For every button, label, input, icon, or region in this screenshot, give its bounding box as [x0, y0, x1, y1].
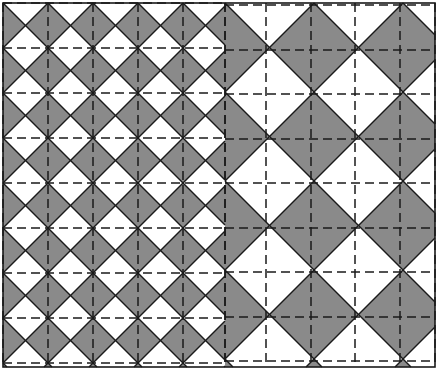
- tiling-figure: [0, 0, 438, 370]
- tiling-canvas: [0, 0, 438, 370]
